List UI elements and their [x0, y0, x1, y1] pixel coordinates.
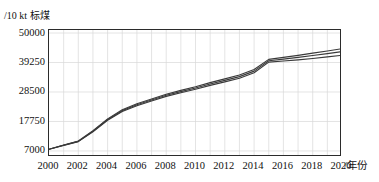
gridlines — [49, 30, 341, 156]
y-tick-label: 17750 — [1, 115, 45, 126]
x-tick-label: 2010 — [184, 159, 205, 172]
x-tick-label: 2002 — [67, 159, 88, 172]
x-tick-label: 2008 — [155, 159, 176, 172]
x-tick-label: 2012 — [213, 159, 234, 172]
x-tick-label: 2000 — [38, 159, 59, 172]
x-axis-label: /年份 — [344, 159, 367, 172]
x-tick-label: 2014 — [243, 159, 264, 172]
chart-plot-svg — [49, 30, 341, 156]
x-tick-label: 2006 — [125, 159, 146, 172]
plot-area — [48, 29, 341, 156]
y-tick-label: 28500 — [1, 85, 45, 96]
y-tick-label: 50000 — [1, 27, 45, 38]
x-tick-label: 2004 — [96, 159, 117, 172]
chart-figure: /10 kt 标煤 700017750285003925050000 20002… — [0, 0, 379, 182]
x-axis-ticks: 2000200220042006200820102012201420162018… — [0, 159, 379, 175]
chart-title — [0, 0, 379, 7]
y-axis-label: /10 kt 标煤 — [4, 10, 50, 22]
y-tick-label: 39250 — [1, 56, 45, 67]
x-tick-label: 2018 — [301, 159, 322, 172]
y-tick-label: 7000 — [1, 144, 45, 155]
x-tick-label: 2016 — [272, 159, 293, 172]
